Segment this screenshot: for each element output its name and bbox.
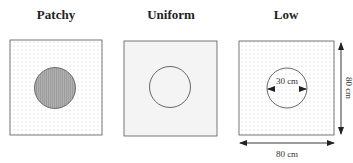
low-panel: 30 cm 80 cm 80 cm (239, 41, 353, 159)
patchy-circle (35, 68, 76, 109)
low-plot (239, 41, 334, 135)
density-diagram: 30 cm 80 cm 80 cm (0, 0, 353, 163)
width-label: 80 cm (276, 149, 298, 159)
height-label: 80 cm (344, 77, 353, 99)
uniform-plot (124, 41, 217, 136)
diameter-label: 30 cm (276, 76, 298, 86)
uniform-panel (124, 41, 217, 136)
patchy-panel (10, 40, 102, 135)
